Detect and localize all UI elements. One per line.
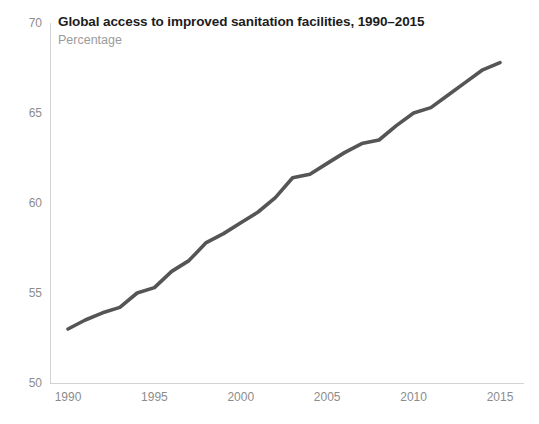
x-axis-tick-labels: 199019952000200520102015 — [55, 390, 514, 404]
x-tick-label: 2000 — [227, 390, 254, 404]
y-tick-label: 70 — [29, 16, 43, 30]
x-tick-label: 1995 — [141, 390, 168, 404]
plot-area: 5055606570 199019952000200520102015 — [0, 0, 539, 424]
y-tick-label: 50 — [29, 376, 43, 390]
y-tick-label: 55 — [29, 286, 43, 300]
y-axis-tick-labels: 5055606570 — [29, 16, 43, 390]
x-tick-label: 2005 — [314, 390, 341, 404]
y-tick-label: 65 — [29, 106, 43, 120]
data-series-line — [68, 63, 500, 329]
x-tick-label: 1990 — [55, 390, 82, 404]
x-tick-label: 2015 — [487, 390, 514, 404]
x-tick-label: 2010 — [400, 390, 427, 404]
chart-container: Global access to improved sanitation fac… — [0, 0, 539, 424]
y-tick-label: 60 — [29, 196, 43, 210]
